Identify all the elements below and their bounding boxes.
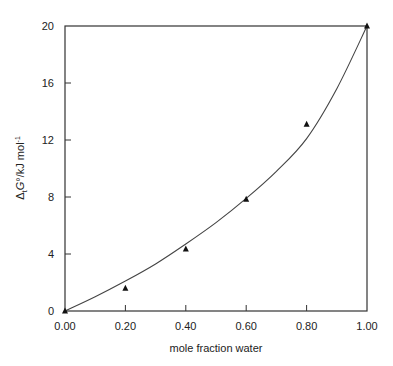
- y-label-rest: °/kJ mol: [14, 142, 26, 181]
- x-tick-label: 1.00: [356, 320, 377, 332]
- chart: 0.000.200.400.600.801.00 048121620 mole …: [0, 0, 393, 366]
- y-axis-label: ΔtG°/kJ mol-1: [14, 136, 29, 200]
- triangle-marker: [122, 285, 128, 291]
- x-axis-label: mole fraction water: [170, 342, 263, 354]
- y-tick-label: 8: [48, 191, 54, 203]
- plot-border: [65, 26, 367, 311]
- plot-frame: [65, 26, 367, 311]
- x-tick-label: 0.60: [235, 320, 256, 332]
- x-axis-ticks: 0.000.200.400.600.801.00: [54, 305, 377, 332]
- triangle-marker: [304, 121, 310, 127]
- y-tick-label: 12: [42, 134, 54, 146]
- x-tick-label: 0.40: [175, 320, 196, 332]
- y-axis-ticks: 048121620: [42, 20, 71, 317]
- y-tick-label: 20: [42, 20, 54, 32]
- y-tick-label: 0: [48, 305, 54, 317]
- fitted-curve: [65, 26, 367, 311]
- data-points: [62, 23, 370, 314]
- x-tick-label: 0.80: [296, 320, 317, 332]
- x-tick-label: 0.20: [115, 320, 136, 332]
- y-tick-label: 4: [48, 248, 54, 260]
- curve-path: [65, 26, 367, 311]
- y-label-sup: -1: [14, 136, 21, 142]
- y-tick-label: 16: [42, 77, 54, 89]
- x-tick-label: 0.00: [54, 320, 75, 332]
- triangle-marker: [183, 246, 189, 252]
